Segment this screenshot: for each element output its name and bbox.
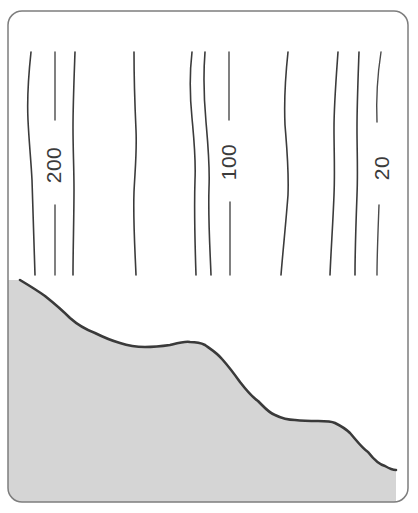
contour-figure: 200 100 20 [0,0,418,513]
contour-label-20: 20 [370,156,393,180]
contour-label-100: 100 [217,144,240,181]
contour-label-200: 200 [42,147,65,184]
figure-canvas: 200 100 20 [0,0,418,513]
